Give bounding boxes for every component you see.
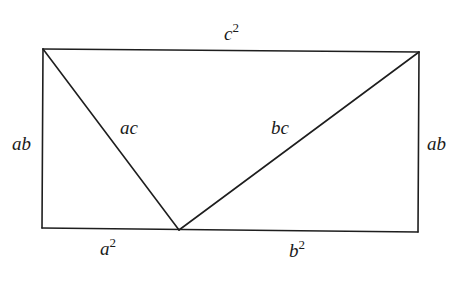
label-right-ab: ab: [427, 133, 446, 154]
rectangle-triangle-diagram: c2 ab ab ac bc a2 b2: [0, 0, 454, 282]
bottom-edge: [42, 228, 418, 232]
label-bottom-a-squared: a2: [100, 235, 116, 259]
right-diagonal: [179, 52, 419, 230]
right-edge: [418, 52, 419, 232]
label-right-diagonal-bc: bc: [271, 117, 290, 138]
left-diagonal: [43, 49, 179, 230]
label-bottom-b-squared: b2: [289, 237, 305, 261]
label-left-ab: ab: [12, 133, 31, 154]
label-left-diagonal-ac: ac: [120, 117, 139, 138]
top-edge: [43, 49, 419, 52]
left-edge: [42, 49, 43, 228]
label-top-c-squared: c2: [224, 20, 239, 44]
